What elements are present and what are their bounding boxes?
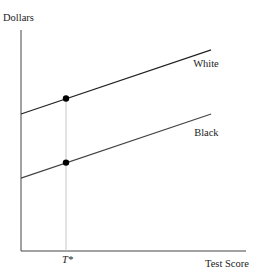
- series-layer: [21, 50, 211, 178]
- series-line-black: [21, 114, 211, 178]
- chart: Dollars Test Score T* White Black: [0, 0, 267, 275]
- marker-white: [63, 95, 69, 101]
- series-label-black: Black: [194, 127, 219, 138]
- y-axis-label: Dollars: [3, 12, 34, 23]
- x-tick-label-t-star: T*: [62, 254, 74, 265]
- x-axis-label: Test Score: [205, 258, 249, 269]
- marker-black: [63, 159, 69, 165]
- series-line-white: [21, 50, 211, 114]
- series-label-white: White: [193, 58, 219, 69]
